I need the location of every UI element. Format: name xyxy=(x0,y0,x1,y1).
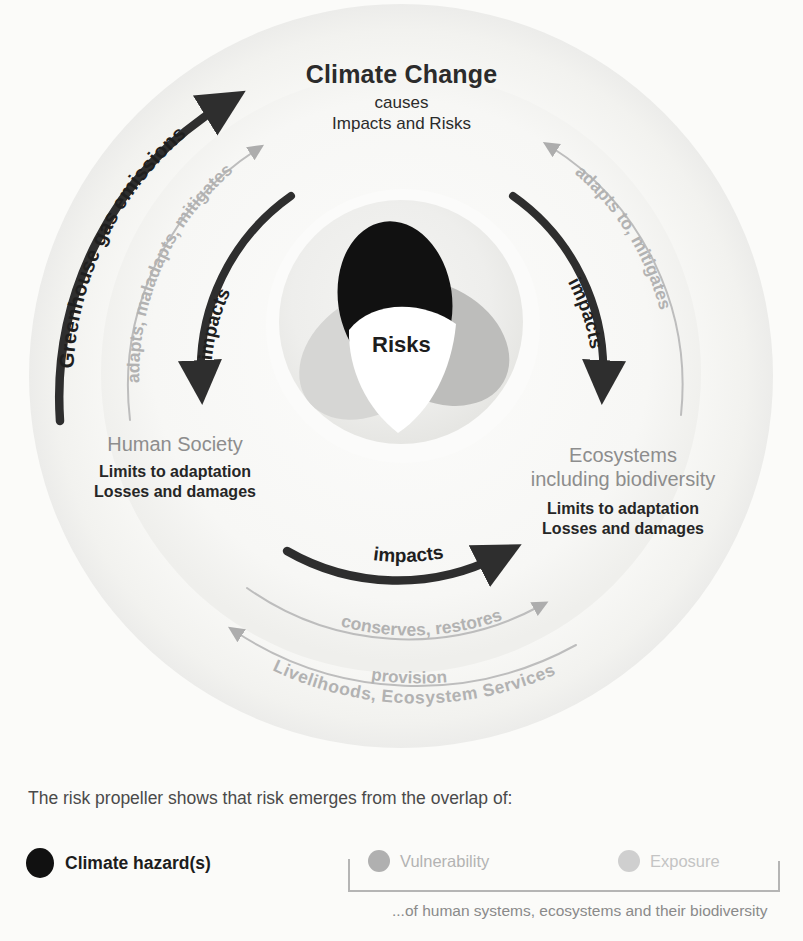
legend-intro-text: The risk propeller shows that risk emerg… xyxy=(28,788,512,809)
ecosystems-heading-2: including biodiversity xyxy=(488,467,758,491)
ecosystems-heading-1: Ecosystems xyxy=(488,443,758,467)
human-society-detail-1: Limits to adaptation xyxy=(55,462,295,482)
ecosystems-block: Ecosystems including biodiversity Limits… xyxy=(488,443,758,539)
vulnerability-swatch-icon xyxy=(368,850,390,872)
title-subline-causes: causes xyxy=(0,93,803,113)
risks-center-label: Risks xyxy=(372,332,431,358)
human-society-detail-2: Losses and damages xyxy=(55,482,295,502)
label-impacts-bottom: impacts xyxy=(372,541,445,566)
ecosystems-detail-1: Limits to adaptation xyxy=(488,499,758,519)
legend-label-climate-hazard: Climate hazard(s) xyxy=(65,853,211,874)
legend-label-exposure: Exposure xyxy=(650,852,720,871)
legend-label-vulnerability: Vulnerability xyxy=(400,852,489,871)
ecosystems-detail-2: Losses and damages xyxy=(488,519,758,539)
climate-risk-diagram: Greenhouse gas emissions adapts, maladap… xyxy=(0,0,803,941)
legend-item-climate-hazard: Climate hazard(s) xyxy=(26,848,211,878)
hazard-swatch-icon xyxy=(26,848,54,878)
title-subline-impacts-risks: Impacts and Risks xyxy=(0,114,803,134)
human-society-heading: Human Society xyxy=(55,432,295,456)
human-society-block: Human Society Limits to adaptation Losse… xyxy=(55,432,295,502)
legend-footnote: ...of human systems, ecosystems and thei… xyxy=(392,902,768,920)
page-title: Climate Change xyxy=(0,60,803,89)
label-provision: provision xyxy=(370,665,447,687)
exposure-swatch-icon xyxy=(618,850,640,872)
legend-item-vulnerability: Vulnerability xyxy=(368,850,489,872)
legend-item-exposure: Exposure xyxy=(618,850,720,872)
